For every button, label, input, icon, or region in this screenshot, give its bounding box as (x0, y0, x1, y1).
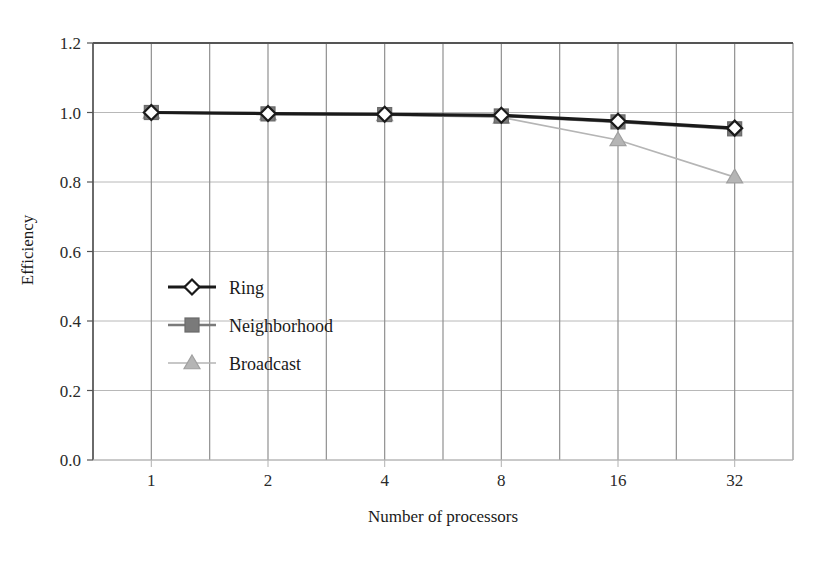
x-tick-label: 1 (147, 471, 156, 490)
y-tick-label: 0.6 (60, 243, 81, 262)
x-axis-title: Number of processors (368, 507, 518, 526)
figure-background (0, 0, 826, 562)
y-tick-label: 0.8 (60, 173, 81, 192)
legend-label: Neighborhood (229, 316, 333, 336)
chart-figure: 0.00.20.40.60.81.01.2 12481632 Efficienc… (0, 0, 826, 562)
y-tick-label: 0.2 (60, 382, 81, 401)
x-tick-label: 4 (380, 471, 389, 490)
x-tick-label: 32 (726, 471, 743, 490)
y-tick-label: 1.2 (60, 34, 81, 53)
legend-label: Broadcast (229, 354, 301, 374)
legend-label: Ring (229, 278, 264, 298)
y-tick-label: 1.0 (60, 104, 81, 123)
y-tick-label: 0.0 (60, 451, 81, 470)
x-tick-label: 16 (610, 471, 627, 490)
chart-canvas: 0.00.20.40.60.81.01.2 12481632 Efficienc… (0, 0, 826, 562)
data-point-marker (185, 318, 199, 332)
y-tick-label: 0.4 (60, 312, 82, 331)
y-axis-title: Efficiency (18, 214, 37, 285)
x-tick-label: 2 (264, 471, 273, 490)
x-tick-label: 8 (497, 471, 506, 490)
